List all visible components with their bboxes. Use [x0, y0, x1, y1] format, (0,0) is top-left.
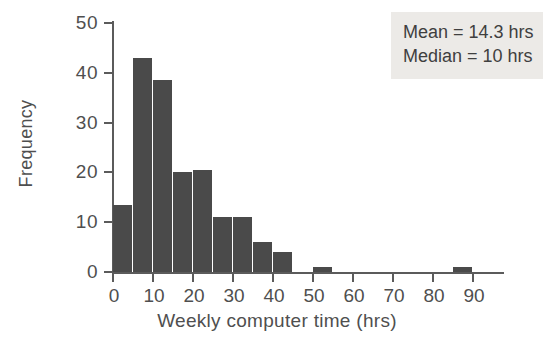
bar-50-55 — [313, 267, 333, 272]
x-tick-label-30: 30 — [214, 286, 254, 305]
x-tick-90 — [472, 273, 474, 282]
bar-85-90 — [453, 267, 473, 272]
x-tick-label-50: 50 — [294, 286, 334, 305]
y-tick-label-20: 20 — [58, 162, 98, 181]
x-axis-title: Weekly computer time (hrs) — [0, 310, 554, 332]
y-tick-10 — [104, 221, 113, 223]
y-tick-50 — [104, 22, 113, 24]
y-tick-40 — [104, 72, 113, 74]
x-tick-label-80: 80 — [414, 286, 454, 305]
x-tick-40 — [272, 273, 274, 282]
x-tick-label-40: 40 — [254, 286, 294, 305]
y-tick-label-0: 0 — [58, 262, 98, 281]
stats-annotation-box: Mean = 14.3 hrs Median = 10 hrs — [391, 12, 543, 79]
x-tick-label-0: 0 — [94, 286, 134, 305]
x-tick-label-70: 70 — [374, 286, 414, 305]
x-tick-label-90: 90 — [454, 286, 494, 305]
stat-median: Median = 10 hrs — [403, 45, 533, 69]
bar-20-25 — [193, 170, 213, 272]
histogram-chart: 01020304050 0102030405060708090 Frequenc… — [0, 0, 554, 349]
y-axis-title: Frequency — [16, 64, 37, 224]
y-tick-label-30: 30 — [58, 113, 98, 132]
x-tick-0 — [112, 273, 114, 282]
x-tick-20 — [192, 273, 194, 282]
bar-15-20 — [173, 172, 193, 272]
x-tick-60 — [352, 273, 354, 282]
stat-mean: Mean = 14.3 hrs — [403, 21, 533, 45]
x-tick-10 — [152, 273, 154, 282]
bar-10-15 — [153, 80, 173, 272]
bar-30-35 — [233, 217, 253, 272]
x-axis-line — [112, 272, 504, 274]
x-tick-70 — [392, 273, 394, 282]
x-tick-30 — [232, 273, 234, 282]
y-tick-20 — [104, 171, 113, 173]
x-tick-label-10: 10 — [134, 286, 174, 305]
bar-5-10 — [133, 58, 153, 272]
bar-35-40 — [253, 242, 273, 272]
y-tick-30 — [104, 122, 113, 124]
y-tick-label-40: 40 — [58, 63, 98, 82]
x-tick-50 — [312, 273, 314, 282]
bar-40-45 — [273, 252, 293, 272]
bar-25-30 — [213, 217, 233, 272]
bar-0-5 — [113, 205, 133, 272]
x-tick-label-60: 60 — [334, 286, 374, 305]
y-tick-label-10: 10 — [58, 212, 98, 231]
x-tick-80 — [432, 273, 434, 282]
x-tick-label-20: 20 — [174, 286, 214, 305]
y-tick-label-50: 50 — [58, 13, 98, 32]
